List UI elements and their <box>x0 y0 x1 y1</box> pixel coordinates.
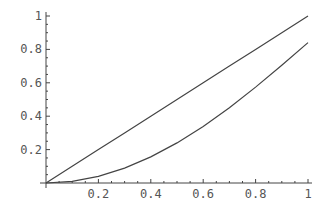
y-tick-label: 0.2 <box>20 143 42 157</box>
series-line-2 <box>46 43 308 183</box>
plot-area <box>46 16 308 183</box>
line-chart: 0.20.40.60.81 0.20.40.60.81 <box>0 0 332 211</box>
y-tick-label: 1 <box>35 9 42 23</box>
x-tick-label: 0.6 <box>192 187 214 201</box>
y-ticks <box>46 16 50 175</box>
x-ticks <box>59 179 308 183</box>
y-tick-labels: 0.20.40.60.81 <box>20 9 42 157</box>
y-axis: 0.20.40.60.81 <box>20 9 50 188</box>
x-tick-label: 0.8 <box>245 187 267 201</box>
x-tick-label: 0.2 <box>88 187 110 201</box>
x-tick-label: 0.4 <box>140 187 162 201</box>
x-tick-label: 1 <box>304 187 311 201</box>
y-tick-label: 0.4 <box>20 109 42 123</box>
series-line-1 <box>46 16 308 183</box>
x-tick-labels: 0.20.40.60.81 <box>88 187 312 201</box>
y-tick-label: 0.8 <box>20 42 42 56</box>
x-axis: 0.20.40.60.81 <box>40 179 312 201</box>
y-tick-label: 0.6 <box>20 76 42 90</box>
